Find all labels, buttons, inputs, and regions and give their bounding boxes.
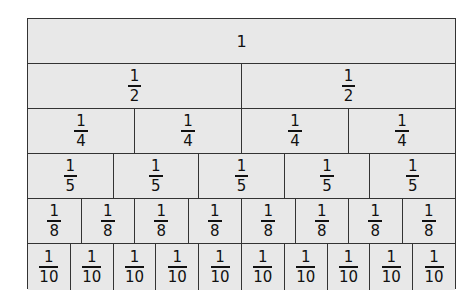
fraction-cell: 14 <box>135 109 242 153</box>
fraction-label: 110 <box>125 249 144 285</box>
fraction-cell: 15 <box>285 154 371 198</box>
denominator: 8 <box>49 223 59 239</box>
denominator: 10 <box>382 269 401 285</box>
fraction-label: 14 <box>74 113 88 149</box>
denominator: 5 <box>151 178 161 194</box>
fraction-label: 14 <box>181 113 195 149</box>
fraction-cell: 18 <box>135 199 189 243</box>
denominator: 8 <box>263 223 273 239</box>
numerator: 1 <box>149 158 163 174</box>
fraction-label: 15 <box>320 158 334 194</box>
numerator: 1 <box>213 249 227 265</box>
whole-label: 1 <box>236 32 246 51</box>
denominator: 4 <box>290 133 300 149</box>
fraction-cell: 18 <box>189 199 243 243</box>
fraction-label: 110 <box>39 249 58 285</box>
fraction-label: 15 <box>64 158 78 194</box>
numerator: 1 <box>128 249 142 265</box>
fraction-cell: 18 <box>403 199 456 243</box>
denominator: 8 <box>156 223 166 239</box>
fraction-cell: 18 <box>296 199 350 243</box>
fraction-label: 18 <box>261 203 275 239</box>
fraction-label: 18 <box>154 203 168 239</box>
fraction-cell: 12 <box>242 64 455 108</box>
fraction-cell: 12 <box>28 64 242 108</box>
numerator: 1 <box>181 113 195 129</box>
fraction-cell: 18 <box>242 199 296 243</box>
fraction-cell: 110 <box>328 244 371 290</box>
fraction-cell: 18 <box>28 199 82 243</box>
denominator: 10 <box>339 269 358 285</box>
fraction-cell: 110 <box>28 244 71 290</box>
numerator: 1 <box>342 68 356 84</box>
fraction-cell: 15 <box>370 154 455 198</box>
fraction-label: 110 <box>168 249 187 285</box>
fraction-label: 18 <box>368 203 382 239</box>
fraction-wall: 1121214141414151515151518181818181818181… <box>27 18 456 289</box>
denominator: 8 <box>103 223 113 239</box>
denominator: 10 <box>125 269 144 285</box>
fraction-label: 110 <box>382 249 401 285</box>
numerator: 1 <box>342 249 356 265</box>
fraction-row-5: 1515151515 <box>28 154 455 199</box>
denominator: 4 <box>397 133 407 149</box>
fraction-cell: 110 <box>71 244 114 290</box>
numerator: 1 <box>208 203 222 219</box>
fraction-cell: 18 <box>82 199 136 243</box>
fraction-cell: 110 <box>285 244 328 290</box>
fraction-label: 110 <box>253 249 272 285</box>
denominator: 5 <box>408 178 418 194</box>
fraction-label: 12 <box>342 68 356 104</box>
numerator: 1 <box>288 113 302 129</box>
fraction-cell: 18 <box>349 199 403 243</box>
fraction-cell: 110 <box>114 244 157 290</box>
numerator: 1 <box>154 203 168 219</box>
denominator: 8 <box>424 223 434 239</box>
denominator: 5 <box>237 178 247 194</box>
fraction-label: 110 <box>82 249 101 285</box>
denominator: 8 <box>210 223 220 239</box>
fraction-row-8: 1818181818181818 <box>28 199 455 244</box>
fraction-cell: 14 <box>349 109 455 153</box>
fraction-label: 18 <box>315 203 329 239</box>
fraction-row-10: 110110110110110110110110110110 <box>28 244 455 290</box>
fraction-label: 15 <box>406 158 420 194</box>
numerator: 1 <box>395 113 409 129</box>
fraction-cell: 15 <box>28 154 114 198</box>
denominator: 5 <box>322 178 332 194</box>
fraction-label: 110 <box>296 249 315 285</box>
denominator: 10 <box>296 269 315 285</box>
denominator: 4 <box>183 133 193 149</box>
numerator: 1 <box>47 203 61 219</box>
fraction-row-4: 14141414 <box>28 109 455 154</box>
fraction-label: 18 <box>422 203 436 239</box>
numerator: 1 <box>261 203 275 219</box>
numerator: 1 <box>427 249 441 265</box>
numerator: 1 <box>384 249 398 265</box>
denominator: 2 <box>130 88 140 104</box>
numerator: 1 <box>74 113 88 129</box>
numerator: 1 <box>320 158 334 174</box>
fraction-cell: 110 <box>413 244 455 290</box>
numerator: 1 <box>128 68 142 84</box>
numerator: 1 <box>101 203 115 219</box>
fraction-label: 14 <box>288 113 302 149</box>
fraction-cell: 110 <box>370 244 413 290</box>
fraction-cell: 15 <box>199 154 285 198</box>
denominator: 5 <box>66 178 76 194</box>
numerator: 1 <box>406 158 420 174</box>
fraction-row-1: 1 <box>28 19 455 64</box>
numerator: 1 <box>171 249 185 265</box>
fraction-label: 18 <box>101 203 115 239</box>
numerator: 1 <box>42 249 56 265</box>
denominator: 8 <box>317 223 327 239</box>
fraction-label: 14 <box>395 113 409 149</box>
fraction-cell: 14 <box>242 109 349 153</box>
denominator: 10 <box>168 269 187 285</box>
fraction-cell: 14 <box>28 109 135 153</box>
fraction-label: 110 <box>339 249 358 285</box>
denominator: 10 <box>39 269 58 285</box>
denominator: 8 <box>370 223 380 239</box>
fraction-label: 18 <box>208 203 222 239</box>
numerator: 1 <box>422 203 436 219</box>
